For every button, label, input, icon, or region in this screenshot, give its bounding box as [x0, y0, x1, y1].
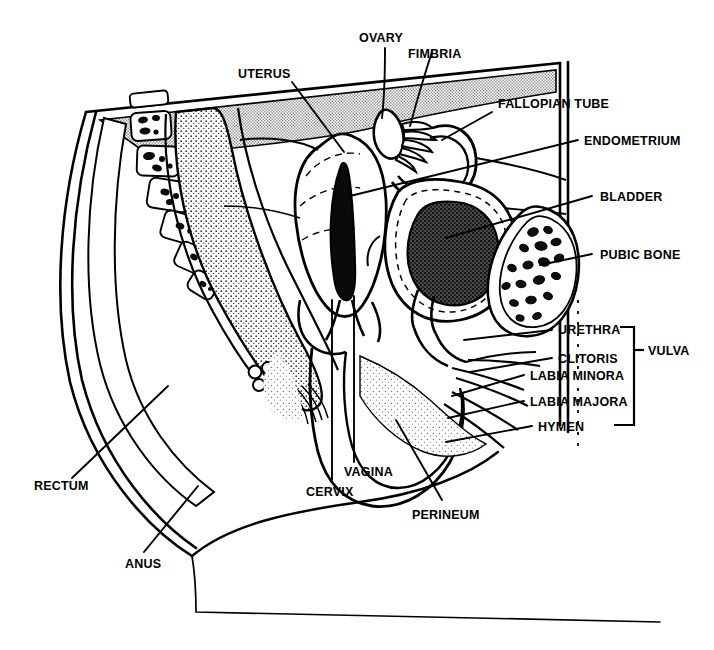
anatomical-diagram-figure: OVARY FIMBRIA UTERUS FALLOPIAN TUBE ENDO… — [0, 0, 714, 650]
label-perineum: PERINEUM — [412, 508, 480, 522]
label-urethra: URETHRA — [558, 323, 621, 337]
label-fimbria: FIMBRIA — [408, 47, 461, 61]
label-clitoris: CLITORIS — [558, 352, 618, 366]
label-bladder: BLADDER — [600, 190, 663, 204]
label-labia-minora: LABIA MINORA — [530, 369, 624, 383]
label-cervix: CERVIX — [306, 485, 354, 499]
label-endometrium: ENDOMETRIUM — [584, 134, 681, 148]
bladder-contents — [408, 202, 500, 306]
label-anus: ANUS — [125, 557, 161, 571]
label-hymen: HYMEN — [538, 420, 584, 434]
label-vulva: VULVA — [648, 344, 690, 358]
label-uterus: UTERUS — [238, 67, 291, 81]
label-rectum: RECTUM — [34, 479, 89, 493]
pelvic-anatomy-svg: OVARY FIMBRIA UTERUS FALLOPIAN TUBE ENDO… — [0, 0, 714, 650]
label-labia-majora: LABIA MAJORA — [530, 395, 628, 409]
label-ovary: OVARY — [359, 31, 404, 45]
label-pubic-bone: PUBIC BONE — [600, 248, 680, 262]
label-vagina: VAGINA — [344, 465, 393, 479]
label-fallopian-tube: FALLOPIAN TUBE — [498, 97, 609, 111]
